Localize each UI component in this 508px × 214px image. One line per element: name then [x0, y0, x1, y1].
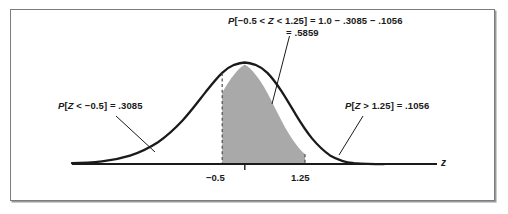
annotation-middle-line2: = .5859 — [228, 27, 403, 39]
annotation-middle-probability: P[−0.5 < Z < 1.25] = 1.0 − .3085 − .1056… — [228, 15, 403, 38]
normal-distribution-figure: P[−0.5 < Z < 1.25] = 1.0 − .3085 − .1056… — [0, 0, 508, 214]
annotation-middle-line1: P[−0.5 < Z < 1.25] = 1.0 − .3085 − .1056 — [228, 15, 403, 26]
leader-line-center — [272, 36, 290, 104]
annotation-right-rendered: P[Z > 1.25] = .1056 — [345, 100, 429, 111]
tick-label-upper-bound: 1.25 — [291, 172, 310, 183]
leader-line-right — [339, 116, 363, 155]
annotation-left-rendered: P[Z < −0.5] = .3085 — [58, 100, 143, 111]
leader-line-left — [116, 116, 155, 152]
z-axis-label: z — [441, 157, 446, 168]
shaded-region — [222, 65, 305, 164]
tick-label-lower-bound: −0.5 — [206, 172, 225, 183]
annotation-right-tail-probability: P[Z > 1.25] = .1056 P[Z > 1.25] = .1056 — [345, 100, 429, 112]
annotation-left-tail-probability: P[Z < −0.5] = .3085 P[Z < −0.5] = .3085 — [58, 100, 143, 112]
